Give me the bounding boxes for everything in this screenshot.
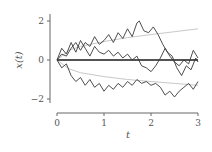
path-1-line: [57, 21, 198, 76]
y-tick-label: −2: [31, 94, 44, 104]
y-tick-label: 2: [38, 16, 44, 26]
x-tick-label: 3: [195, 118, 201, 128]
sample-paths: [57, 21, 198, 97]
x-tick-label: 2: [148, 118, 154, 128]
x-axis-label: t: [126, 129, 131, 140]
y-axis-label: x(t): [13, 51, 24, 69]
upper-envelope-line: [57, 29, 198, 60]
envelope-curves: [57, 29, 198, 86]
path-3-line: [57, 60, 198, 97]
y-tick-label: 0: [38, 55, 44, 65]
x-axis: 0123: [54, 113, 201, 128]
y-axis: −202: [31, 14, 50, 104]
x-tick-label: 0: [54, 118, 60, 128]
chart: −202 0123 t x(t): [0, 0, 212, 152]
x-tick-label: 1: [101, 118, 107, 128]
